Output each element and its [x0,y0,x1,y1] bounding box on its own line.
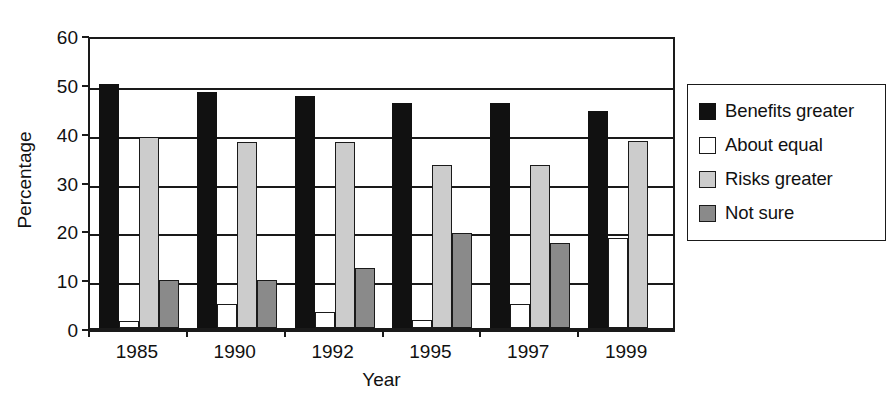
bar [197,92,217,328]
x-axis-tick-mark [479,330,481,337]
bar [490,103,510,328]
x-axis-tick-mark [382,330,384,337]
bar [217,304,237,328]
bar [257,280,277,328]
y-axis-tick-label: 20 [42,223,78,242]
bar [139,137,159,328]
y-axis-tick-label: 40 [42,125,78,144]
x-axis-tick-label: 1997 [483,341,573,363]
x-axis-tick-label: 1999 [581,341,671,363]
y-axis-tick-label: 10 [42,272,78,291]
bar [392,103,412,328]
y-axis-title: Percentage [13,80,37,280]
legend-item-label: Risks greater [725,168,833,190]
bar [628,141,648,328]
x-axis-tick-mark [88,330,90,337]
bar-group [197,39,277,328]
legend-item-label: Benefits greater [725,100,854,122]
bar-group [99,39,179,328]
bar-chart-figure: Percentage 0102030405060 198519901992199… [0,0,896,397]
legend-item-label: About equal [725,134,823,156]
bar-group [295,39,375,328]
y-axis-tick-label: 30 [42,174,78,193]
chart-legend: Benefits greaterAbout equalRisks greater… [687,84,886,241]
bar [315,312,335,328]
light-gray-square-swatch [699,171,716,188]
bar [608,238,628,328]
y-axis-tick-label: 50 [42,76,78,95]
x-axis-tick-mark [577,330,579,337]
bar-groups [90,39,673,328]
x-axis-tick-label: 1992 [288,341,378,363]
bar [550,243,570,328]
x-axis-title: Year [88,369,675,391]
y-axis-tick-label: 60 [42,28,78,47]
bar [159,280,179,328]
plot-area [88,37,675,330]
bar [432,165,452,328]
x-axis-tick-label: 1990 [190,341,280,363]
bar [355,268,375,328]
bar [412,320,432,328]
y-axis-tick-labels: 0102030405060 [38,0,78,397]
bar-group [490,39,570,328]
bar-group [392,39,472,328]
x-axis-tick-mark [284,330,286,337]
legend-item: Benefits greater [699,94,875,128]
white-square-swatch [699,137,716,154]
legend-item: About equal [699,128,875,162]
legend-item-label: Not sure [725,202,794,224]
y-axis-title-text: Percentage [14,131,36,228]
legend-item: Risks greater [699,162,875,196]
y-axis-tick-label: 0 [42,321,78,340]
bar [119,321,139,328]
bar [530,165,550,328]
x-axis-tick-label: 1995 [385,341,475,363]
bar [588,111,608,328]
dark-gray-square-swatch [699,205,716,222]
x-axis-tick-mark [186,330,188,337]
bar [295,96,315,328]
legend-item: Not sure [699,196,875,230]
x-axis-tick-label: 1985 [92,341,182,363]
bar [510,304,530,328]
black-square-swatch [699,103,716,120]
bar [99,84,119,328]
bar [335,142,355,328]
bar [452,233,472,328]
bar-group [588,39,668,328]
bar [237,142,257,328]
